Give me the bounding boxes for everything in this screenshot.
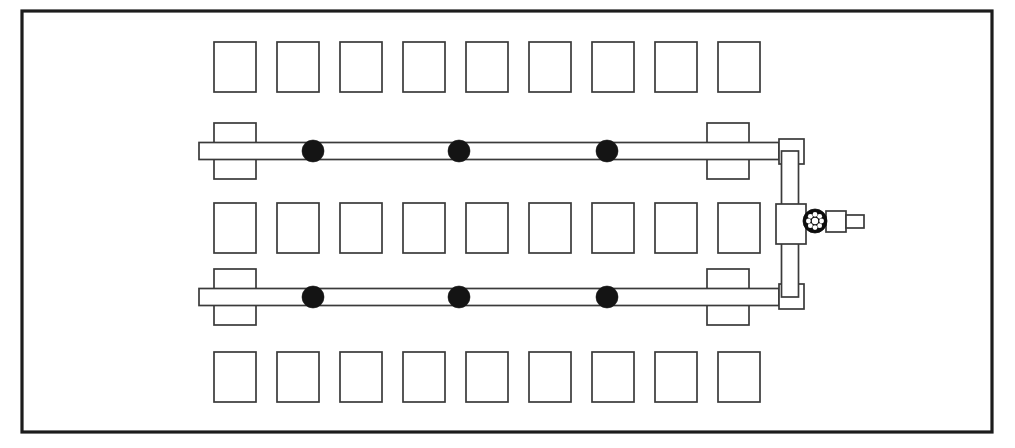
handwheel-spoke-gap — [813, 225, 818, 230]
nozzle-block — [403, 352, 445, 402]
handwheel-spoke-gap — [806, 219, 811, 224]
nozzle-block — [592, 352, 634, 402]
gate-valve-assembly — [776, 204, 864, 244]
valve-outlet-stub — [826, 211, 846, 232]
nozzle-block — [466, 203, 508, 253]
upper-spray-rail — [199, 123, 779, 179]
diagram-canvas — [0, 0, 1015, 448]
handwheel-spoke-gap — [817, 214, 822, 219]
nozzle-block — [340, 203, 382, 253]
nozzle-block — [214, 203, 256, 253]
handwheel-spoke-gap — [808, 223, 813, 228]
nozzle-block — [277, 352, 319, 402]
upper-block-row — [214, 42, 760, 92]
nozzle-block — [529, 203, 571, 253]
nozzle-block — [277, 203, 319, 253]
technical-diagram — [0, 0, 1015, 448]
nozzle-block — [466, 42, 508, 92]
nozzle-block — [655, 42, 697, 92]
spray-nozzle — [596, 286, 618, 308]
nozzle-block — [403, 203, 445, 253]
spray-rail-pipe — [199, 289, 779, 306]
nozzle-block — [214, 352, 256, 402]
nozzle-block — [592, 42, 634, 92]
spray-rail-pipe — [199, 143, 779, 160]
handwheel-spoke-gap — [819, 219, 824, 224]
nozzle-block — [340, 352, 382, 402]
spray-nozzle — [596, 140, 618, 162]
nozzle-block — [718, 352, 760, 402]
nozzle-block — [655, 203, 697, 253]
spray-nozzle — [302, 140, 324, 162]
nozzle-block — [529, 42, 571, 92]
valve-outlet-nozzle — [846, 215, 864, 228]
nozzle-block — [214, 42, 256, 92]
lower-spray-rail — [199, 269, 779, 325]
lower-block-row — [214, 352, 760, 402]
nozzle-block-rows — [214, 42, 760, 402]
nozzle-block — [403, 42, 445, 92]
nozzle-block — [340, 42, 382, 92]
middle-block-row — [214, 203, 760, 253]
handwheel-hub — [812, 218, 818, 224]
nozzle-block — [466, 352, 508, 402]
nozzle-block — [718, 203, 760, 253]
handwheel-spoke-gap — [813, 212, 818, 217]
nozzle-block — [718, 42, 760, 92]
handwheel-spoke-gap — [817, 223, 822, 228]
spray-nozzle — [448, 140, 470, 162]
nozzle-block — [529, 352, 571, 402]
nozzle-block — [277, 42, 319, 92]
nozzle-block — [592, 203, 634, 253]
nozzle-block — [655, 352, 697, 402]
handwheel-spoke-gap — [808, 214, 813, 219]
valve-tee-body — [776, 204, 806, 244]
spray-nozzle — [448, 286, 470, 308]
spray-nozzle — [302, 286, 324, 308]
